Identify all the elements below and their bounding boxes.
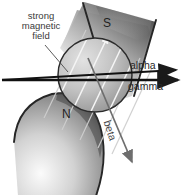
label-gamma-ray: gamma [128,81,163,92]
label-south-pole: S [103,17,111,30]
label-strong-magnetic-field: strong magnetic field [14,11,68,41]
label-alpha-ray: alpha [130,60,156,71]
magnetic-deflection-diagram: strong magnetic field alpha gamma beta S… [0,0,190,195]
label-north-pole: N [62,108,71,121]
